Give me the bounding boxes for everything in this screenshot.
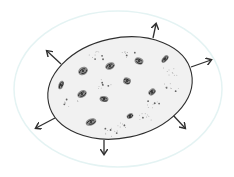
arrow-upper-left-icon xyxy=(47,51,61,64)
universe-oval xyxy=(38,24,202,152)
expanding-universe-diagram xyxy=(0,0,234,177)
arrow-upper-right-icon xyxy=(191,60,211,67)
diagram-svg xyxy=(0,0,234,177)
arrow-lower-left-icon xyxy=(36,118,55,128)
arrow-top-icon xyxy=(153,24,156,38)
